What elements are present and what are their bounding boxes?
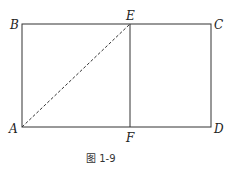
label-b: B — [9, 18, 19, 32]
geometry-figure: B E C A F D 图 1-9 — [0, 0, 233, 172]
label-e: E — [125, 9, 135, 23]
label-c: C — [214, 18, 223, 32]
label-f: F — [125, 131, 135, 145]
segment-ae-dashed — [22, 24, 130, 127]
figure-caption: 图 1-9 — [86, 153, 116, 164]
rectangle-abcd — [22, 24, 211, 127]
label-a: A — [8, 122, 18, 136]
label-d: D — [213, 122, 224, 136]
